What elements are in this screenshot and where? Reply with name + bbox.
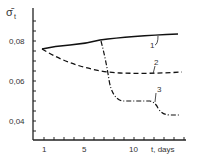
- y-tick-label: 0,06: [9, 77, 25, 86]
- x-axis-label: t, days: [151, 145, 175, 154]
- y-axis-label-sub: t: [14, 13, 16, 20]
- x-tick-label: 5: [82, 145, 87, 154]
- y-tick-label: 0,08: [9, 37, 25, 46]
- curve-2: [42, 49, 182, 73]
- stress-chart: σ̄ t 0,08 0,06 0,04 1 5 10 t, days 1 2 3: [0, 0, 201, 159]
- curve-2-label: 2: [154, 58, 159, 67]
- curve-3-leader: [155, 93, 156, 102]
- curve-1-label: 1: [150, 41, 155, 50]
- y-tick-label: 0,04: [9, 117, 25, 126]
- curve-3: [101, 41, 180, 115]
- curve-1-leader: [155, 36, 158, 45]
- x-tick-label: 10: [129, 145, 138, 154]
- x-tick-label: 1: [42, 145, 47, 154]
- curve-3-label: 3: [157, 85, 162, 94]
